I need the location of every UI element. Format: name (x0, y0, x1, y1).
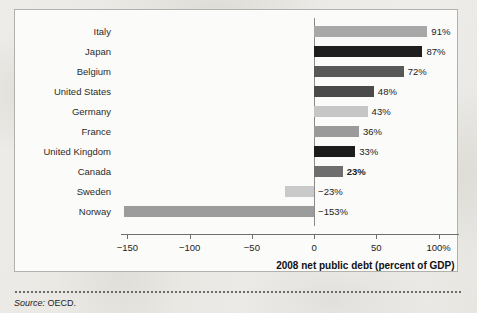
x-axis-line (121, 234, 459, 235)
footer-divider (14, 291, 463, 293)
bar (314, 86, 374, 97)
source-label: Source: (14, 298, 45, 308)
x-axis-title: 2008 net public debt (percent of GDP) (15, 260, 455, 271)
figure-panel: ItalyJapanBelgiumUnited StatesGermanyFra… (14, 9, 458, 272)
bar (314, 66, 404, 77)
category-label: Belgium (23, 67, 111, 77)
bar-value-label: 23% (347, 166, 366, 177)
category-axis: ItalyJapanBelgiumUnited StatesGermanyFra… (23, 26, 111, 226)
x-tick-mark (439, 235, 440, 239)
bar-value-label: 43% (372, 106, 391, 117)
x-tick-label: −100 (165, 242, 215, 253)
category-label: France (23, 127, 111, 137)
x-tick-mark (314, 235, 315, 239)
bar (314, 46, 422, 57)
bar (285, 186, 314, 197)
bar-value-label: 33% (359, 146, 378, 157)
x-tick-label: 100% (414, 242, 464, 253)
bar-value-label: 87% (426, 46, 445, 57)
bar-value-label: 72% (408, 66, 427, 77)
bar (314, 126, 359, 137)
category-label: Germany (23, 107, 111, 117)
category-label: Japan (23, 47, 111, 57)
x-tick-label: 0 (289, 242, 339, 253)
source-note: Source: OECD. (14, 298, 76, 308)
bar-value-label: 48% (378, 86, 397, 97)
bar-value-label: 36% (363, 126, 382, 137)
x-tick-mark (252, 235, 253, 239)
source-value: OECD. (48, 298, 77, 308)
x-tick-mark (127, 235, 128, 239)
category-label: Italy (23, 27, 111, 37)
bar-value-label: −153% (318, 206, 348, 217)
bar-value-label: 91% (431, 26, 450, 37)
bar-value-label: −23% (318, 186, 343, 197)
x-tick-label: −50 (227, 242, 277, 253)
x-tick-mark (190, 235, 191, 239)
category-label: Norway (23, 207, 111, 217)
category-label: Sweden (23, 187, 111, 197)
category-label: Canada (23, 167, 111, 177)
x-tick-label: 50 (351, 242, 401, 253)
bars-layer: 91%87%72%48%43%36%33%23%−23%−153% (115, 26, 451, 226)
bar (314, 26, 427, 37)
category-label: United States (23, 87, 111, 97)
bar (314, 146, 355, 157)
x-tick-label: −150 (102, 242, 152, 253)
category-label: United Kingdom (23, 147, 111, 157)
bar (314, 166, 343, 177)
bar (314, 106, 368, 117)
bar (124, 206, 314, 217)
x-tick-mark (376, 235, 377, 239)
chart-plot-area: ItalyJapanBelgiumUnited StatesGermanyFra… (15, 10, 459, 273)
